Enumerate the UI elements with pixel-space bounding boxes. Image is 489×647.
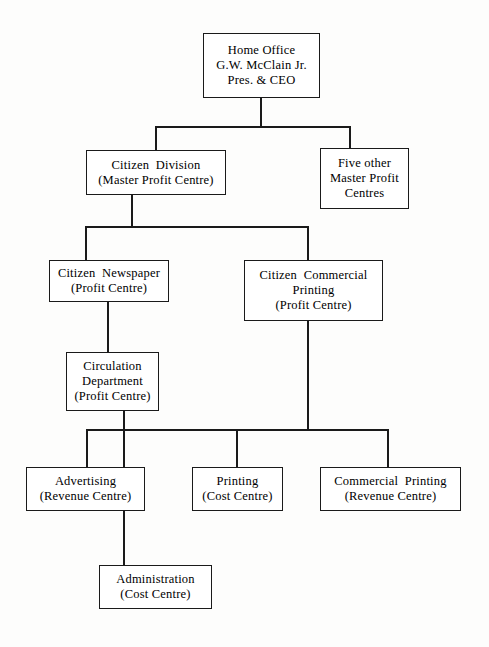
connector-citizen-newspaper-riser bbox=[85, 226, 87, 260]
node-home-office[interactable]: Home Office G.W. McClain Jr. Pres. & CEO bbox=[203, 33, 320, 98]
connector-citizen-commercial-printing-riser bbox=[307, 226, 309, 260]
node-five-other-master-profit-centres[interactable]: Five other Master Profit Centres bbox=[320, 148, 409, 209]
node-advertising-line-1: Advertising bbox=[55, 474, 116, 489]
node-five-other-line-2: Master Profit bbox=[330, 171, 399, 186]
connector-ccp-drop-to-bus bbox=[307, 321, 309, 429]
node-home-office-line-2: G.W. McClain Jr. bbox=[216, 58, 307, 73]
connector-citizen-division-stem bbox=[131, 195, 133, 226]
node-administration-line-2: (Cost Centre) bbox=[120, 587, 190, 602]
node-citizen-division-line-1: Citizen Division bbox=[112, 158, 201, 173]
node-citizen-newspaper-line-1: Citizen Newspaper bbox=[58, 266, 160, 281]
connector-citizen-division-riser bbox=[155, 126, 157, 150]
node-administration-line-1: Administration bbox=[116, 572, 195, 587]
node-home-office-line-3: Pres. & CEO bbox=[228, 73, 296, 88]
node-advertising-line-2: (Revenue Centre) bbox=[40, 489, 132, 504]
node-commercial-printing-line-2: (Revenue Centre) bbox=[345, 489, 437, 504]
node-advertising[interactable]: Advertising (Revenue Centre) bbox=[26, 467, 145, 511]
node-circulation-department-line-3: (Profit Centre) bbox=[74, 389, 150, 404]
node-citizen-division[interactable]: Citizen Division (Master Profit Centre) bbox=[86, 150, 226, 195]
node-printing-line-1: Printing bbox=[217, 474, 259, 489]
node-administration[interactable]: Administration (Cost Centre) bbox=[99, 565, 212, 609]
node-commercial-printing-line-1: Commercial Printing bbox=[334, 474, 446, 489]
connector-five-other-riser bbox=[349, 126, 351, 148]
node-printing-line-2: (Cost Centre) bbox=[202, 489, 272, 504]
connector-commercial-printing-drop bbox=[387, 429, 389, 467]
node-home-office-line-1: Home Office bbox=[228, 43, 296, 58]
connector-level1-bus bbox=[155, 126, 351, 128]
node-citizen-newspaper-line-2: (Profit Centre) bbox=[71, 281, 147, 296]
node-citizen-commercial-printing-line-1: Citizen Commercial bbox=[260, 268, 368, 283]
node-citizen-commercial-printing-line-2: Printing bbox=[293, 283, 335, 298]
connector-level2-bus bbox=[85, 226, 309, 228]
org-chart: Home Office G.W. McClain Jr. Pres. & CEO… bbox=[0, 0, 489, 647]
connector-printing-drop bbox=[236, 429, 238, 467]
node-citizen-commercial-printing[interactable]: Citizen Commercial Printing (Profit Cent… bbox=[244, 260, 383, 321]
node-commercial-printing[interactable]: Commercial Printing (Revenue Centre) bbox=[320, 467, 461, 511]
node-circulation-department-line-1: Circulation bbox=[83, 359, 141, 374]
node-citizen-commercial-printing-line-3: (Profit Centre) bbox=[275, 298, 351, 313]
node-citizen-newspaper[interactable]: Citizen Newspaper (Profit Centre) bbox=[49, 260, 169, 302]
connector-home-office-stem bbox=[260, 98, 262, 126]
node-circulation-department-line-2: Department bbox=[82, 374, 143, 389]
node-five-other-line-3: Centres bbox=[345, 186, 385, 201]
connector-advertising-drop bbox=[86, 429, 88, 467]
connector-newspaper-to-circulation bbox=[107, 302, 109, 352]
node-five-other-line-1: Five other bbox=[338, 156, 391, 171]
node-circulation-department[interactable]: Circulation Department (Profit Centre) bbox=[66, 352, 159, 411]
node-printing[interactable]: Printing (Cost Centre) bbox=[192, 467, 283, 511]
node-citizen-division-line-2: (Master Profit Centre) bbox=[98, 173, 213, 188]
